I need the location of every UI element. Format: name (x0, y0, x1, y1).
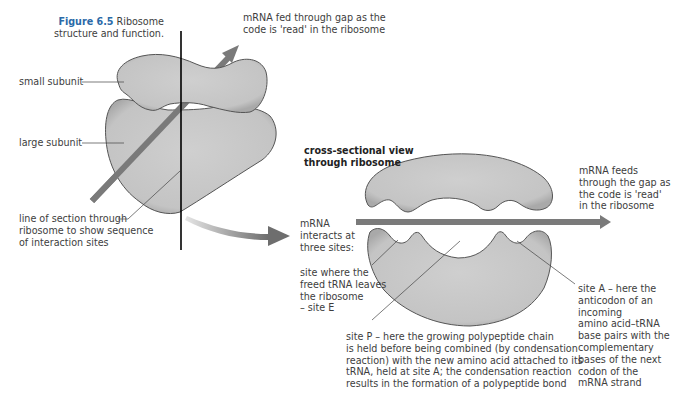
cross-section-lower-subunit (368, 229, 552, 326)
label-small-subunit: small subunit (19, 76, 83, 88)
small-subunit-shape (117, 54, 267, 112)
label-line-of-section: line of section through ribosome to show… (19, 213, 154, 248)
cross-section-title: cross-sectional view through ribosome (304, 145, 414, 168)
curved-arrow (185, 216, 290, 246)
label-mrna-interacts: mRNA interacts at three sites: (300, 218, 355, 253)
label-mrna-fed: mRNA fed through gap as the code is 'rea… (243, 12, 386, 36)
mrna-horizontal-arrow (356, 215, 611, 229)
label-site-e: site where the freed tRNA leaves the rib… (300, 267, 386, 314)
label-site-a: site A – here the anticodon of an incomi… (578, 283, 670, 389)
label-mrna-feeds: mRNA feeds through the gap as the code i… (579, 165, 671, 212)
label-large-subunit: large subunit (19, 137, 82, 149)
label-site-p: site P – here the growing polypeptide ch… (346, 331, 583, 390)
